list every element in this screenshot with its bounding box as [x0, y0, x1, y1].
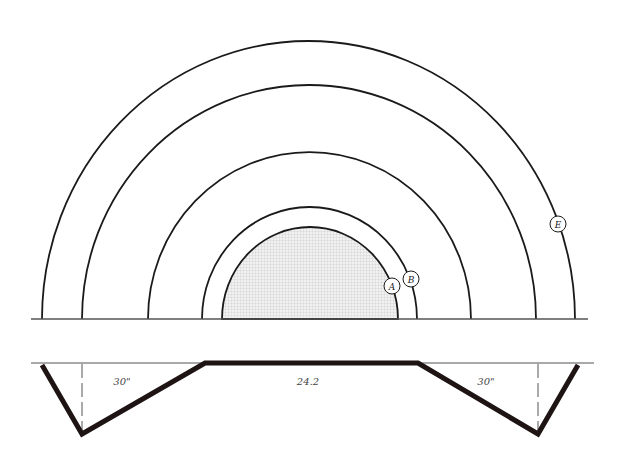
- tunnel-diagram: A B E 30" 24.2 30": [0, 0, 617, 473]
- svg-text:E: E: [554, 220, 562, 230]
- svg-text:B: B: [407, 275, 415, 285]
- shaded-region-a: [222, 227, 398, 319]
- label-a: A: [384, 278, 400, 294]
- svg-text:A: A: [388, 282, 396, 292]
- label-e: E: [550, 216, 566, 232]
- channel-profile: [42, 363, 578, 434]
- bottom-width-label: 24.2: [296, 376, 319, 387]
- left-slope-label: 30": [113, 376, 130, 387]
- right-slope-label: 30": [477, 376, 494, 387]
- label-b: B: [403, 271, 419, 287]
